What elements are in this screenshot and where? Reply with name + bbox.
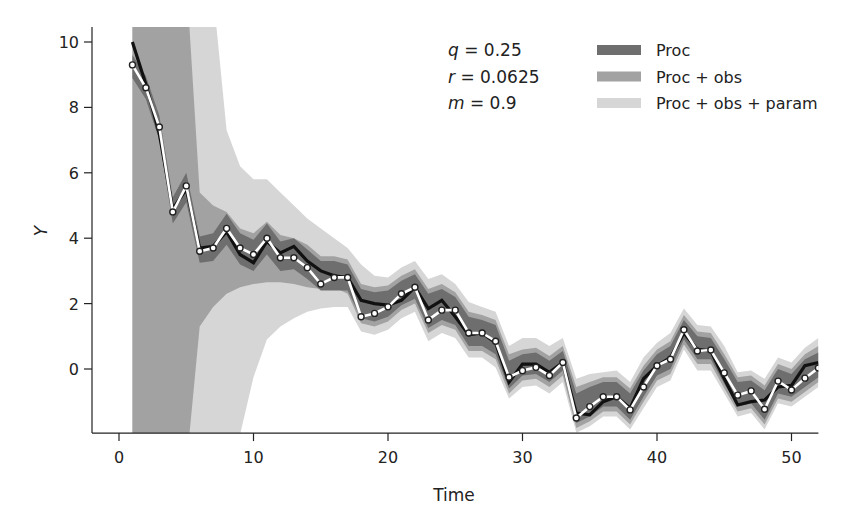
y-tick-label: 8 — [69, 98, 79, 117]
data-point-marker — [573, 415, 579, 421]
data-point-marker — [237, 245, 243, 251]
x-tick-label: 10 — [243, 448, 263, 467]
data-point-marker — [789, 387, 795, 393]
data-point-marker — [156, 124, 162, 130]
y-axis-title: Y — [31, 224, 51, 236]
data-point-marker — [815, 365, 821, 371]
data-point-marker — [479, 330, 485, 336]
x-tick-label: 30 — [512, 448, 532, 467]
data-point-marker — [721, 370, 727, 376]
data-point-marker — [614, 394, 620, 400]
data-point-marker — [358, 314, 364, 320]
data-point-marker — [143, 85, 149, 91]
y-tick-label: 6 — [69, 164, 79, 183]
data-point-marker — [439, 307, 445, 313]
x-tick-label: 20 — [378, 448, 398, 467]
data-point-marker — [304, 265, 310, 271]
data-point-marker — [708, 347, 714, 353]
data-point-marker — [331, 274, 337, 280]
data-point-marker — [277, 255, 283, 261]
data-point-marker — [129, 62, 135, 68]
legend: ProcProc + obsProc + obs + param — [597, 41, 818, 113]
y-tick-label: 4 — [69, 229, 79, 248]
data-point-marker — [775, 378, 781, 384]
data-point-marker — [762, 406, 768, 412]
data-point-marker — [560, 359, 566, 365]
y-tick-label: 2 — [69, 295, 79, 314]
x-axis-title: Time — [432, 485, 475, 505]
data-point-marker — [546, 373, 552, 379]
data-point-marker — [466, 330, 472, 336]
data-point-marker — [735, 392, 741, 398]
data-point-marker — [251, 252, 257, 258]
data-point-marker — [170, 209, 176, 215]
data-point-marker — [641, 384, 647, 390]
data-point-marker — [600, 394, 606, 400]
data-point-marker — [520, 368, 526, 374]
legend-swatch — [597, 45, 641, 55]
legend-swatch — [597, 72, 641, 82]
data-point-marker — [372, 310, 378, 316]
parameter-annotation: r = 0.0625 — [448, 67, 540, 87]
data-point-marker — [802, 375, 808, 381]
data-point-marker — [224, 225, 230, 231]
data-point-marker — [681, 327, 687, 333]
data-point-marker — [452, 307, 458, 313]
y-tick-label: 10 — [59, 33, 79, 52]
data-point-marker — [667, 356, 673, 362]
legend-label: Proc — [656, 41, 690, 60]
parameter-annotations: q = 0.25r = 0.0625m = 0.9 — [448, 40, 540, 113]
data-point-marker — [210, 245, 216, 251]
data-point-marker — [385, 304, 391, 310]
legend-label: Proc + obs + param — [656, 94, 818, 113]
data-point-marker — [748, 388, 754, 394]
parameter-annotation: m = 0.9 — [448, 93, 517, 113]
data-point-marker — [197, 248, 203, 254]
parameter-annotation: q = 0.25 — [448, 40, 522, 60]
data-point-marker — [493, 338, 499, 344]
data-point-marker — [398, 291, 404, 297]
data-point-marker — [506, 374, 512, 380]
data-point-marker — [694, 348, 700, 354]
legend-label: Proc + obs — [656, 68, 742, 87]
x-tick-label: 40 — [647, 448, 667, 467]
data-point-marker — [587, 404, 593, 410]
x-tick-label: 50 — [781, 448, 801, 467]
legend-swatch — [597, 98, 641, 108]
data-point-marker — [183, 183, 189, 189]
data-point-marker — [627, 407, 633, 413]
x-tick-label: 0 — [114, 448, 124, 467]
data-point-marker — [264, 235, 270, 241]
data-point-marker — [654, 363, 660, 369]
data-point-marker — [291, 255, 297, 261]
data-point-marker — [412, 284, 418, 290]
data-point-marker — [318, 281, 324, 287]
data-point-marker — [345, 274, 351, 280]
chart-canvas: 024681001020304050TimeY q = 0.25r = 0.06… — [0, 0, 851, 522]
y-tick-label: 0 — [69, 360, 79, 379]
data-point-marker — [533, 364, 539, 370]
data-point-marker — [425, 317, 431, 323]
